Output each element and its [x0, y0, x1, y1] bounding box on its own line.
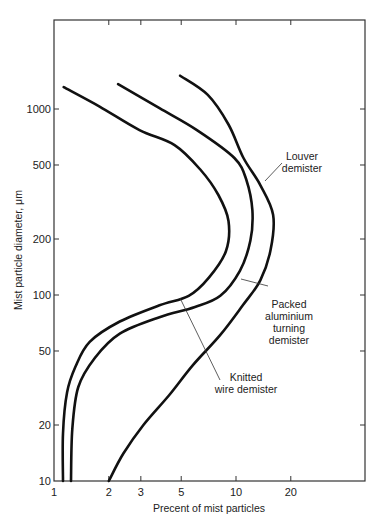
- louver-label-line1: Louver: [286, 150, 319, 162]
- packed-label-line1: Packed: [271, 298, 306, 310]
- knitted-annotation: Knitted wire demister: [180, 298, 278, 395]
- x-tick-label: 20: [285, 486, 297, 498]
- louver-pointer-line: [265, 163, 282, 181]
- y-tick-label: 200: [33, 233, 51, 245]
- y-axis-ticks: [54, 109, 365, 425]
- x-tick-label: 3: [138, 486, 144, 498]
- knitted-pointer-line: [180, 298, 220, 380]
- louver-annotation: Louver demister: [265, 150, 323, 181]
- louver-label-line2: demister: [282, 162, 323, 174]
- y-tick-label: 10: [39, 475, 51, 487]
- x-tick-label: 5: [178, 486, 184, 498]
- knitted-label-line2: wire demister: [214, 383, 278, 395]
- y-tick-label: 500: [33, 159, 51, 171]
- packed-pointer-line: [241, 279, 268, 286]
- y-tick-label: 20: [39, 419, 51, 431]
- knitted-label-line1: Knitted: [230, 371, 263, 383]
- packed-label-line4: demister: [269, 334, 310, 346]
- y-tick-label: 100: [33, 289, 51, 301]
- y-tick-label: 1000: [27, 103, 51, 115]
- y-axis-tick-labels: 1020501002005001000: [27, 103, 51, 487]
- packed-aluminium-curve: [71, 84, 253, 481]
- louver-curve: [109, 76, 274, 481]
- x-tick-label: 10: [230, 486, 242, 498]
- x-tick-label: 2: [106, 486, 112, 498]
- y-axis-title: Mist particle diameter, μm: [12, 190, 24, 310]
- y-tick-label: 50: [39, 345, 51, 357]
- packed-annotation: Packed aluminium turning demister: [241, 279, 313, 346]
- plot-frame: [54, 20, 365, 481]
- packed-label-line3: turning: [273, 322, 305, 334]
- x-axis-title: Precent of mist particles: [153, 502, 265, 514]
- data-series: [63, 76, 274, 481]
- demister-efficiency-chart: 12351020 1020501002005001000 Precent of …: [0, 0, 381, 522]
- x-axis-tick-labels: 12351020: [51, 486, 297, 498]
- x-tick-label: 1: [51, 486, 57, 498]
- packed-label-line2: aluminium: [265, 310, 313, 322]
